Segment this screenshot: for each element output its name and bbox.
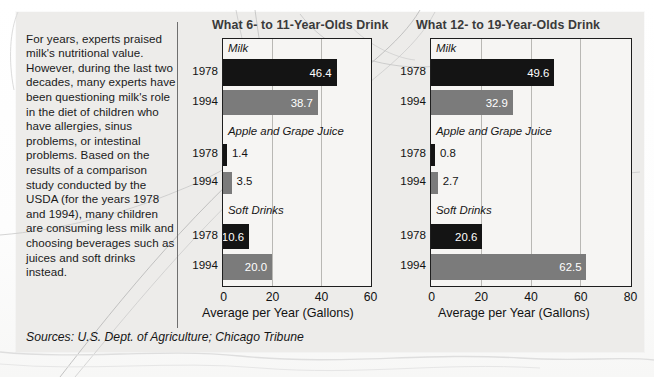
bar-apple-and-grape-juice-1978 bbox=[431, 144, 435, 166]
x-tick-60: 60 bbox=[568, 290, 594, 304]
bar-group-label: Soft Drinks bbox=[228, 204, 284, 216]
year-label-1994: 1994 bbox=[188, 94, 218, 107]
bar-value-label: 62.5 bbox=[559, 261, 586, 273]
bar-apple-and-grape-juice-1994 bbox=[223, 172, 232, 194]
bar-value-label: 49.6 bbox=[527, 67, 554, 79]
article-text: For years, experts praised milk's nutrit… bbox=[26, 32, 178, 332]
year-label-1978: 1978 bbox=[396, 146, 426, 159]
bar-value-label: 20.0 bbox=[245, 261, 272, 273]
bar-apple-and-grape-juice-1978 bbox=[223, 144, 227, 166]
x-tick-80: 80 bbox=[618, 290, 644, 304]
plot-area-6-to-11: Milk46.438.7Apple and Grape Juice1.43.5S… bbox=[222, 38, 372, 287]
bar-soft-drinks-1994: 62.5 bbox=[431, 254, 586, 280]
plot-area-12-to-19: Milk49.632.9Apple and Grape Juice0.82.7S… bbox=[430, 38, 632, 287]
bar-group-label: Milk bbox=[436, 42, 456, 54]
x-tick-40: 40 bbox=[518, 290, 544, 304]
x-tick-20: 20 bbox=[468, 290, 494, 304]
x-axis-label-6-to-11: Average per Year (Gallons) bbox=[202, 306, 354, 320]
sources-line: Sources: U.S. Dept. of Agriculture; Chic… bbox=[26, 330, 304, 344]
infographic-content: For years, experts praised milk's nutrit… bbox=[16, 12, 644, 352]
bar-group-label: Apple and Grape Juice bbox=[436, 125, 552, 137]
x-axis-label-12-to-19: Average per Year (Gallons) bbox=[438, 306, 590, 320]
x-tick-40: 40 bbox=[309, 290, 335, 304]
bar-value-label: 20.6 bbox=[455, 231, 482, 243]
year-label-1994: 1994 bbox=[188, 174, 218, 187]
bar-soft-drinks-1994: 20.0 bbox=[223, 254, 272, 280]
chart-panel-6-to-11: What 6- to 11-Year-Olds Drink Milk46.438… bbox=[188, 14, 400, 332]
bar-milk-1978: 46.4 bbox=[223, 59, 337, 86]
bar-group-label: Soft Drinks bbox=[436, 204, 492, 216]
bar-soft-drinks-1978: 20.6 bbox=[431, 224, 482, 249]
bar-value-label: 10.6 bbox=[222, 231, 249, 243]
bar-value-label: 3.5 bbox=[237, 175, 253, 187]
bar-value-label: 46.4 bbox=[310, 67, 337, 79]
year-label-1978: 1978 bbox=[188, 64, 218, 77]
chart-panel-12-to-19: What 12- to 19-Year-Olds Drink Milk49.63… bbox=[408, 14, 640, 332]
year-label-1978: 1978 bbox=[396, 228, 426, 241]
bar-soft-drinks-1978: 10.6 bbox=[223, 224, 249, 249]
bar-group-label: Milk bbox=[228, 42, 248, 54]
year-label-1994: 1994 bbox=[396, 94, 426, 107]
plot-box-6-to-11: Milk46.438.7Apple and Grape Juice1.43.5S… bbox=[222, 38, 372, 287]
x-tick-0: 0 bbox=[211, 290, 237, 304]
bar-value-label: 0.8 bbox=[440, 147, 456, 159]
bar-milk-1994: 32.9 bbox=[431, 90, 513, 115]
column-divider bbox=[177, 22, 178, 328]
year-label-1994: 1994 bbox=[396, 258, 426, 271]
x-tick-0: 0 bbox=[419, 290, 445, 304]
bar-group-label: Apple and Grape Juice bbox=[228, 125, 344, 137]
gridline bbox=[580, 39, 581, 286]
year-label-1994: 1994 bbox=[188, 258, 218, 271]
year-label-1994: 1994 bbox=[396, 174, 426, 187]
x-tick-60: 60 bbox=[358, 290, 384, 304]
year-label-1978: 1978 bbox=[396, 64, 426, 77]
year-label-1978: 1978 bbox=[188, 146, 218, 159]
bar-value-label: 32.9 bbox=[486, 97, 513, 109]
bar-apple-and-grape-juice-1994 bbox=[431, 172, 438, 194]
bar-value-label: 1.4 bbox=[232, 147, 248, 159]
bar-milk-1994: 38.7 bbox=[223, 90, 318, 115]
chart-title-6-to-11: What 6- to 11-Year-Olds Drink bbox=[212, 18, 388, 32]
chart-title-12-to-19: What 12- to 19-Year-Olds Drink bbox=[416, 18, 600, 32]
bar-milk-1978: 49.6 bbox=[431, 59, 554, 86]
bar-value-label: 38.7 bbox=[291, 97, 318, 109]
plot-box-12-to-19: Milk49.632.9Apple and Grape Juice0.82.7S… bbox=[430, 38, 632, 287]
year-label-1978: 1978 bbox=[188, 228, 218, 241]
bar-value-label: 2.7 bbox=[443, 175, 459, 187]
x-tick-20: 20 bbox=[260, 290, 286, 304]
